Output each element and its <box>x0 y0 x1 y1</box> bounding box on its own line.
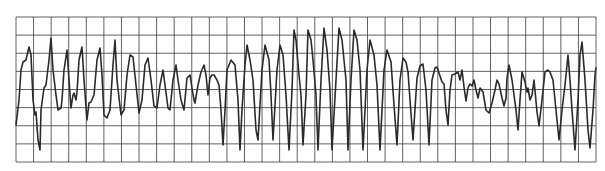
ecg-rhythm-strip <box>0 0 605 171</box>
